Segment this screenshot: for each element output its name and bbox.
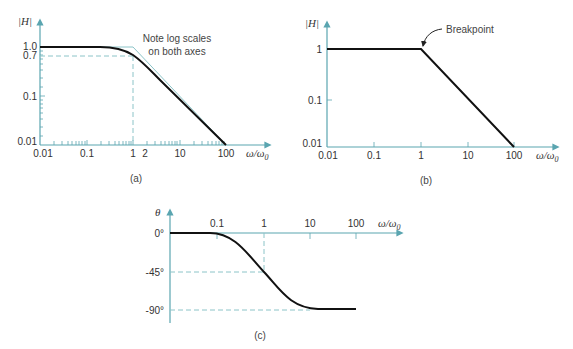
phase-curve: [170, 233, 356, 309]
y-minor-ticks: [40, 47, 45, 136]
x-tick-0.01: 0.01: [318, 150, 338, 161]
x-axis-label: ω/ω0: [536, 149, 559, 164]
x-tick-100: 100: [506, 150, 523, 161]
y-tick-minus-90deg: -90°: [146, 305, 164, 316]
breakpoint-label: Breakpoint: [446, 24, 494, 35]
y-tick-0.1: 0.1: [308, 95, 322, 106]
major-ticks: [327, 49, 514, 147]
x-tick-0.1: 0.1: [80, 148, 94, 159]
y-tick-0.1: 0.1: [23, 91, 37, 102]
y-tick-minus-45deg: -45°: [146, 267, 164, 278]
x-tick-1: 1: [418, 150, 424, 161]
caption-b: (b): [420, 175, 432, 186]
x-tick-100: 100: [218, 148, 235, 159]
x-tick-0.01: 0.01: [33, 148, 53, 159]
x-axis-label: ω/ω0: [246, 147, 269, 162]
y-axis-label: |H|: [18, 15, 32, 27]
panel-b: Breakpoint |H| 1 0.1 0.01 0.01 0.1 1 10 …: [303, 17, 559, 186]
x-tick-1: 1: [261, 218, 267, 229]
x-tick-10: 10: [462, 150, 474, 161]
asymptotic-magnitude-curve: [327, 49, 514, 147]
x-tick-0.1: 0.1: [367, 150, 381, 161]
y-tick-0.01: 0.01: [18, 136, 38, 147]
x-minor-ticks: [54, 140, 224, 145]
x-tick-10: 10: [304, 218, 316, 229]
caption-c: (c): [254, 330, 266, 341]
x-tick-100: 100: [348, 218, 365, 229]
panel-c: θ 0° -45° -90° 0.1 1 10 100 ω/ω0 (c): [146, 206, 401, 341]
panel-a: |H| 1.0 0.7 0.1 0.01 0.01 0.1 1 2 10 100…: [18, 15, 269, 184]
breakpoint-arrow: [423, 29, 442, 46]
bode-plots-figure: |H| 1.0 0.7 0.1 0.01 0.01 0.1 1 2 10 100…: [0, 0, 573, 349]
y-tick-0.7: 0.7: [23, 50, 37, 61]
y-axis-label: |H|: [305, 17, 319, 29]
x-tick-0.1: 0.1: [210, 218, 224, 229]
y-tick-0.01: 0.01: [303, 138, 323, 149]
x-tick-2: 2: [142, 148, 148, 159]
x-axis-label: ω/ω0: [378, 217, 401, 232]
y-tick-0deg: 0°: [154, 228, 164, 239]
note-line-2: on both axes: [148, 46, 205, 57]
caption-a: (a): [130, 173, 142, 184]
x-tick-1: 1: [130, 148, 136, 159]
major-ticks: [217, 233, 356, 239]
y-axis-label: θ: [155, 206, 161, 218]
y-tick-1: 1: [316, 44, 322, 55]
note-line-1: Note log scales: [143, 33, 211, 44]
x-tick-10: 10: [174, 148, 186, 159]
